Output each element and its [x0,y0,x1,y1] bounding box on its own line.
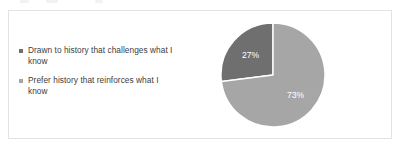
square-marker-icon [19,79,23,83]
pie-chart: 27% 73% [209,19,383,133]
legend-item-label: Prefer history that reinforces what I kn… [28,75,178,96]
artifact-mark [46,0,58,3]
legend-item[interactable]: Prefer history that reinforces what I kn… [19,75,187,96]
chart-card: Drawn to history that challenges what I … [8,10,392,139]
chart-legend: Drawn to history that challenges what I … [19,45,187,105]
legend-item[interactable]: Drawn to history that challenges what I … [19,45,187,66]
pie-slices [221,23,325,127]
pie-slice-label: 73% [287,90,305,100]
square-marker-icon [19,49,23,53]
artifact-mark [20,0,29,3]
legend-item-label: Drawn to history that challenges what I … [28,45,178,66]
pie-svg: 27% 73% [220,22,326,128]
artifact-mark [95,0,103,3]
page-top-artifacts [0,0,402,6]
pie-plot-area: 27% 73% [220,22,326,128]
pie-slice-label: 27% [242,50,260,60]
